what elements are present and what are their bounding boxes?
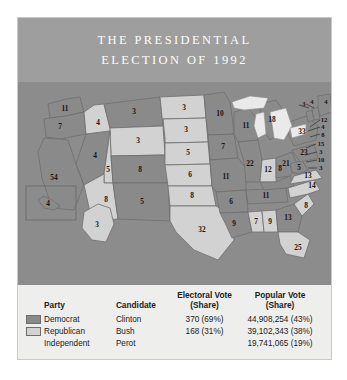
electoral-vote-header-line2: (Share) xyxy=(170,301,239,311)
candidate-name: Perot xyxy=(102,337,170,349)
svg-text:3: 3 xyxy=(319,148,323,155)
svg-text:5: 5 xyxy=(140,197,144,206)
svg-text:5: 5 xyxy=(297,163,301,172)
us-electoral-map: 11 7 54 4 4 3 3 5 8 8 5 3 3 5 6 8 32 10 … xyxy=(18,82,331,285)
svg-text:4: 4 xyxy=(96,118,100,127)
svg-text:6: 6 xyxy=(188,170,192,179)
popular-vote-header: Popular Vote (Share) xyxy=(239,291,321,313)
svg-text:3: 3 xyxy=(319,164,323,171)
table-row[interactable]: Democrat Clinton 370 (69%) 44,908,254 (4… xyxy=(26,313,321,325)
map-svg: 11 7 54 4 4 3 3 5 8 8 5 3 3 5 6 8 32 10 … xyxy=(18,82,331,285)
electoral-vote-value: 168 (31%) xyxy=(170,325,239,337)
party-header: Party xyxy=(42,291,102,313)
party-name: Independent xyxy=(42,337,102,349)
svg-text:3: 3 xyxy=(95,220,99,229)
svg-text:33: 33 xyxy=(298,127,306,136)
popular-vote-value: 19,741,065 (19%) xyxy=(239,337,321,349)
svg-text:13: 13 xyxy=(304,171,312,180)
table-header-row: Party Candidate Electoral Vote (Share) P… xyxy=(26,291,321,313)
svg-text:22: 22 xyxy=(246,159,254,168)
svg-text:21: 21 xyxy=(282,159,290,168)
svg-text:10: 10 xyxy=(318,156,325,163)
table-row[interactable]: Independent Perot 19,741,065 (19%) xyxy=(26,337,321,349)
popular-vote-value: 39,102,343 (38%) xyxy=(239,325,321,337)
svg-text:32: 32 xyxy=(198,225,206,234)
table-row[interactable]: Republican Bush 168 (31%) 39,102,343 (38… xyxy=(26,325,321,337)
svg-text:15: 15 xyxy=(318,140,325,147)
legend-swatch-cell xyxy=(26,337,42,349)
svg-text:8: 8 xyxy=(190,191,194,200)
svg-text:7: 7 xyxy=(254,217,258,226)
svg-text:3: 3 xyxy=(182,103,186,112)
election-map-figure: THE PRESIDENTIAL ELECTION OF 1992 xyxy=(18,18,331,359)
democrat-color-swatch xyxy=(26,315,41,324)
svg-text:18: 18 xyxy=(268,115,276,124)
svg-text:54: 54 xyxy=(50,173,58,182)
popular-vote-value: 44,908,254 (43%) xyxy=(239,313,321,325)
svg-text:4: 4 xyxy=(46,199,50,208)
svg-text:4: 4 xyxy=(93,151,97,160)
candidate-name: Clinton xyxy=(102,313,170,325)
svg-text:11: 11 xyxy=(223,172,230,181)
results-table: Party Candidate Electoral Vote (Share) P… xyxy=(26,291,321,350)
svg-text:14: 14 xyxy=(308,181,316,190)
svg-text:3: 3 xyxy=(184,125,188,134)
popular-vote-header-line2: (Share) xyxy=(239,301,321,311)
svg-text:10: 10 xyxy=(216,109,224,118)
svg-text:25: 25 xyxy=(294,243,302,252)
electoral-vote-header: Electoral Vote (Share) xyxy=(170,291,239,313)
svg-text:8: 8 xyxy=(138,165,142,174)
svg-text:23: 23 xyxy=(300,148,308,157)
svg-text:6: 6 xyxy=(229,197,233,206)
svg-text:5: 5 xyxy=(106,165,110,174)
svg-text:3: 3 xyxy=(132,107,136,116)
svg-text:8: 8 xyxy=(321,131,325,138)
svg-text:8: 8 xyxy=(304,201,308,210)
svg-text:9: 9 xyxy=(232,219,236,228)
svg-text:8: 8 xyxy=(104,195,108,204)
figure-title: THE PRESIDENTIAL ELECTION OF 1992 xyxy=(18,18,331,82)
svg-text:7: 7 xyxy=(58,122,62,131)
republican-color-swatch xyxy=(26,327,41,336)
svg-text:3: 3 xyxy=(136,136,140,145)
svg-text:7: 7 xyxy=(221,142,225,151)
svg-text:4: 4 xyxy=(310,98,314,105)
svg-text:3: 3 xyxy=(302,100,306,107)
title-line-2: ELECTION OF 1992 xyxy=(101,53,248,68)
results-legend: Party Candidate Electoral Vote (Share) P… xyxy=(18,285,331,359)
candidate-name: Bush xyxy=(102,325,170,337)
electoral-vote-value: 370 (69%) xyxy=(170,313,239,325)
svg-text:12: 12 xyxy=(264,165,272,174)
svg-text:4: 4 xyxy=(321,123,325,130)
svg-text:12: 12 xyxy=(321,116,328,123)
lake-superior xyxy=(232,96,268,110)
swatch-header xyxy=(26,291,42,313)
svg-text:11: 11 xyxy=(62,104,69,113)
svg-text:11: 11 xyxy=(263,191,270,200)
svg-text:5: 5 xyxy=(186,148,190,157)
candidate-header: Candidate xyxy=(102,291,170,313)
party-name: Republican xyxy=(42,325,102,337)
title-line-1: THE PRESIDENTIAL xyxy=(97,33,251,48)
svg-text:9: 9 xyxy=(268,217,272,226)
legend-swatch-cell xyxy=(26,325,42,337)
electoral-vote-value xyxy=(170,337,239,349)
legend-swatch-cell xyxy=(26,313,42,325)
svg-text:11: 11 xyxy=(243,121,250,130)
party-name: Democrat xyxy=(42,313,102,325)
svg-text:13: 13 xyxy=(284,213,292,222)
